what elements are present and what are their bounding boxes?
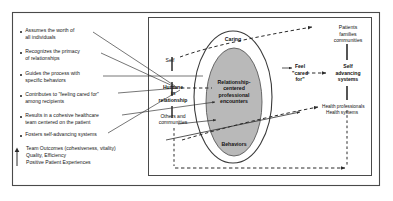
bullet-text: Results in a cohesive healthcareteam cen… <box>25 112 99 126</box>
encounters-label-line-4: encounters <box>209 98 259 104</box>
patients-line-3: communities <box>327 37 369 44</box>
patients-families-communities-label: Patients families communities <box>327 24 369 44</box>
encounters-label: Relationship- centered professional enco… <box>209 79 259 104</box>
list-item: Contributes to "feeling cared for"among … <box>20 91 148 105</box>
figure-root: Assumes the worth ofall individuals Reco… <box>0 0 393 201</box>
bullet-text: Contributes to "feeling cared for"among … <box>25 91 99 105</box>
self-adv-line-3: systems <box>329 76 367 83</box>
self-advancing-systems-label: Self advancing systems <box>329 63 367 83</box>
bullet-line-1: Recognizes the primacy <box>25 48 80 54</box>
humane-line-3: relationship <box>154 97 192 103</box>
bullet-line-2: of relationships <box>25 55 59 61</box>
bullet-line-1: Fosters self-advancing systems <box>25 131 97 137</box>
bullet-line-1: Contributes to "feeling cared for" <box>25 91 99 97</box>
behaviors-label: Behaviors <box>212 141 256 147</box>
bullet-line-2: among recipients <box>25 98 64 104</box>
bullet-text: Fosters self-advancing systems <box>25 131 97 138</box>
bullet-line-1: Assumes the worth of <box>25 27 74 33</box>
list-item: Assumes the worth ofall individuals <box>20 27 142 41</box>
bullet-line-1: Guides the process with <box>25 70 80 76</box>
bullet-line-2: team centered on the patient <box>25 119 90 125</box>
bullet-line-1: Results in a cohesive healthcare <box>25 112 99 118</box>
bullet-marker-icon <box>20 31 22 33</box>
list-item: Recognizes the primacyof relationships <box>20 48 142 62</box>
caring-label: Caring <box>213 36 253 42</box>
bullet-line-2: specific behaviors <box>25 77 66 83</box>
humane-in-relationship-label: Humane in relationship <box>154 84 192 103</box>
feel-cared-for-label: Feel "cared for" <box>288 63 312 83</box>
outcome-line-1: Team Outcomes (cohesiveness, vitality) <box>26 145 116 152</box>
outcome-line-3: Positive Patient Experiences <box>26 159 116 166</box>
bullet-line-2: all individuals <box>25 34 55 40</box>
bullet-marker-icon <box>20 116 22 118</box>
health-line-2: Health systems <box>322 110 376 116</box>
self-label: Self <box>158 57 182 63</box>
bullet-text: Recognizes the primacyof relationships <box>25 48 80 62</box>
outcome-lines: Team Outcomes (cohesiveness, vitality) Q… <box>26 145 116 167</box>
bullet-marker-icon <box>20 52 22 54</box>
bullet-text: Guides the process withspecific behavior… <box>25 70 80 84</box>
list-item: Guides the process withspecific behavior… <box>20 70 142 84</box>
health-professionals-systems-label: Health professionals Health systems <box>322 104 376 116</box>
outcome-line-2: Quality, Efficiency <box>26 152 116 159</box>
list-item: Results in a cohesive healthcareteam cen… <box>20 112 150 126</box>
list-item: Fosters self-advancing systems <box>20 131 150 138</box>
bullet-text: Assumes the worth ofall individuals <box>25 27 74 41</box>
bullet-marker-icon <box>20 95 22 97</box>
team-outcomes-block: Team Outcomes (cohesiveness, vitality) Q… <box>14 145 116 167</box>
bullet-marker-icon <box>20 74 22 76</box>
others-and-communities-label: Others and communities <box>153 113 193 126</box>
others-line-2: communities <box>153 119 193 125</box>
feel-cared-line-3: for" <box>288 76 312 83</box>
bullet-marker-icon <box>20 135 22 137</box>
